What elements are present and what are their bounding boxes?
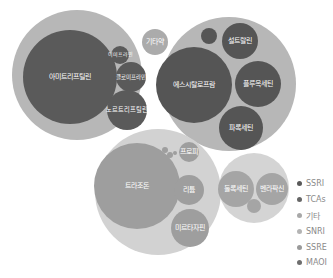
bubble-group: 에스시탈로프람설트랄린플루옥세틴파록세틴 [156,17,296,151]
bubble[interactable] [162,147,168,153]
bubble-label: 설트랄린 [228,36,252,45]
bubble-group: 트라조돈프로피리튬미르타자핀 [94,129,221,255]
legend-label: 기타 [306,210,320,221]
bubble-label: 프로피 [180,147,198,156]
legend-item[interactable]: SSRI [297,176,327,192]
bubble[interactable] [247,199,261,213]
legend-dot-icon [297,229,302,234]
legend-label: SNRI [306,227,325,236]
bubble-group: 둘록세틴벤라팍신 [218,153,289,223]
bubble-label: 파록세틴 [229,123,253,132]
legend-dot-icon [297,260,302,265]
legend-item[interactable]: SNRI [297,223,327,239]
legend-dot-icon [297,197,302,202]
legend-item[interactable]: TCAs [297,192,327,208]
legend-item[interactable]: MAOI [297,255,327,271]
bubble-label: 리튬 [183,185,196,194]
bubble-label: 아미트리프틸린 [49,72,91,81]
legend-label: SSRE [306,243,327,252]
legend-label: MAOI [306,258,327,267]
bubble-label: 노르트리프틸린 [106,105,148,114]
bubble-label: 이미프라민 [108,51,133,58]
bubble-label: 둘록세틴 [224,184,248,193]
bubble-label: 트라조돈 [125,181,150,190]
legend-item[interactable]: SSRE [297,239,327,255]
bubble[interactable] [167,152,173,158]
legend-item[interactable]: 기타 [297,208,327,224]
bubble-label: 미르타자핀 [175,223,205,232]
bubble-group: 아미트리프틸린이미프라민클로미프라민노르트리프틸린 [12,10,148,140]
bubble[interactable] [201,28,217,44]
bubble-label: 플루옥세틴 [243,79,273,88]
bubble-chart: 아미트리프틸린이미프라민클로미프라민노르트리프틸린에스시탈로프람설트랄린플루옥세… [0,0,333,278]
bubble[interactable] [173,151,177,155]
legend-label: TCAs [306,195,326,204]
legend-dot-icon [297,213,302,218]
legend-label: SSRI [306,179,324,188]
bubble-label: 클로미프라민 [116,73,146,81]
bubble-label: 기타약 [146,37,165,46]
legend-dot-icon [297,245,302,250]
legend-dot-icon [297,181,302,186]
bubble-label: 에스시탈로프람 [173,80,216,89]
legend: SSRITCAs기타SNRISSREMAOI [297,176,327,271]
bubble-group: 기타약 [142,29,168,55]
bubble-label: 벤라팍신 [260,184,284,193]
